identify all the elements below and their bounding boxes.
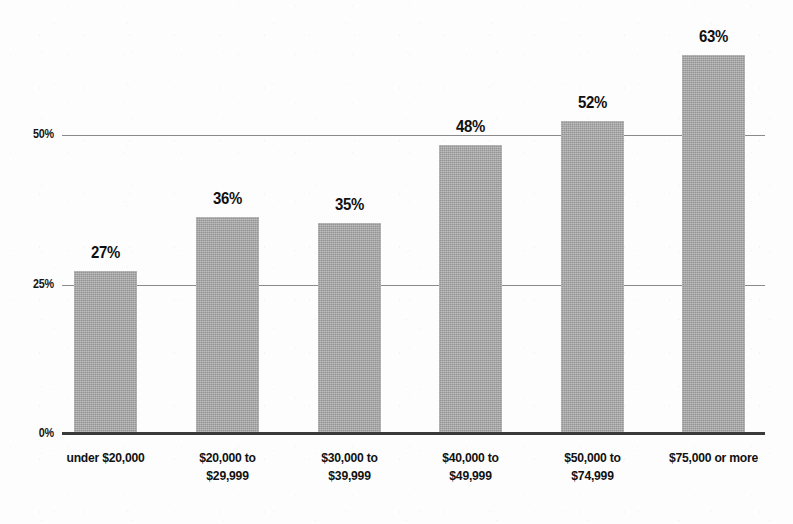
category-label-line: $74,999 <box>525 467 659 485</box>
category-label-line: $75,000 or more <box>646 449 780 467</box>
value-label-4: 52% <box>547 93 638 113</box>
value-label-0: 27% <box>60 243 151 263</box>
value-label-2: 35% <box>304 195 395 215</box>
category-label-5: $75,000 or more <box>639 449 788 467</box>
bar-75000-or-more <box>682 55 745 432</box>
bar-50000-74999 <box>561 121 624 432</box>
axis-baseline-0-percent <box>62 432 765 435</box>
value-label-5: 63% <box>668 27 759 47</box>
gridline-50-percent <box>62 135 765 136</box>
bar-under-20000 <box>74 271 137 432</box>
bar-20000-29999 <box>196 217 259 432</box>
gridline-25-percent <box>62 285 765 286</box>
bar-30000-39999 <box>318 223 381 432</box>
plot-area: 50% 25% 0% 27%36%35%48%52%63% under $20,… <box>0 0 793 524</box>
value-label-1: 36% <box>182 189 273 209</box>
bar-40000-49999 <box>439 145 502 432</box>
y-axis-tick-25: 25% <box>13 277 54 291</box>
y-axis-tick-0: 0% <box>13 426 54 440</box>
value-label-3: 48% <box>425 117 516 137</box>
y-axis-tick-50: 50% <box>13 127 54 141</box>
bar-chart: 50% 25% 0% 27%36%35%48%52%63% under $20,… <box>0 0 793 524</box>
